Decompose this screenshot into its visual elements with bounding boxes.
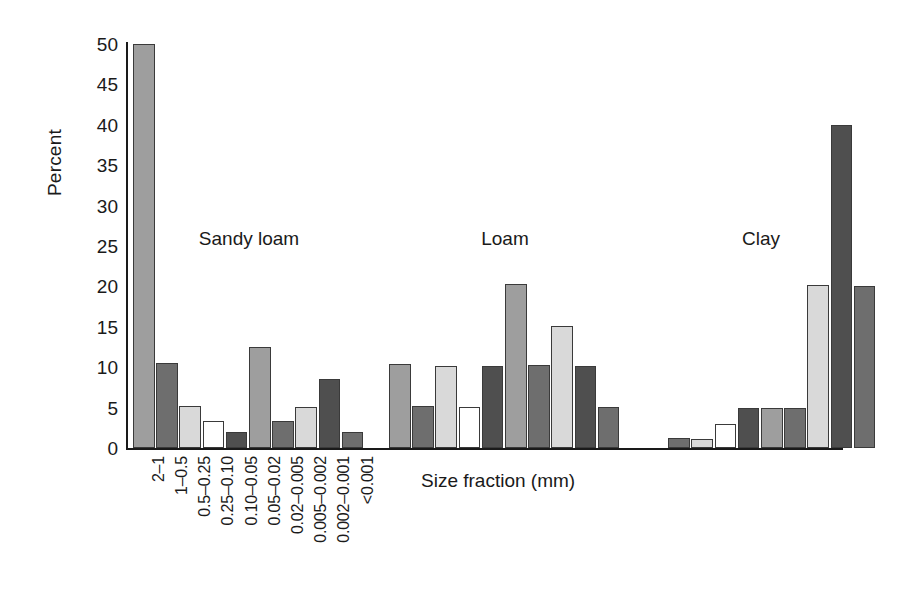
y-tick-label: 15 [78, 317, 118, 336]
y-axis-tick-labels: 05101520253035404550 [72, 44, 118, 448]
x-tick-label: 0.10–0.05 [243, 456, 261, 525]
x-tick-label: 1–0.5 [173, 456, 191, 495]
bar [784, 408, 806, 448]
bar [435, 366, 457, 448]
x-tick-label: 0.02–0.005 [289, 456, 307, 534]
bar [668, 438, 690, 448]
bar [342, 432, 364, 448]
bar [156, 363, 178, 448]
bar [528, 365, 550, 448]
bar [133, 44, 155, 448]
bar [249, 347, 271, 448]
y-tick-label: 25 [78, 237, 118, 256]
x-tick-label: 0.002–0.001 [335, 456, 353, 543]
bar [412, 406, 434, 448]
y-tick-label: 10 [78, 358, 118, 377]
x-tick-label: <0.001 [359, 456, 377, 504]
bar [831, 125, 853, 448]
bar [575, 366, 597, 448]
bar [226, 432, 248, 448]
x-tick-label: 0.25–0.10 [219, 456, 237, 525]
bar [389, 364, 411, 448]
y-tick-label: 0 [78, 439, 118, 458]
bar [854, 286, 876, 448]
group-label: Loam [481, 228, 529, 250]
y-tick-label: 35 [78, 156, 118, 175]
bar [272, 421, 294, 448]
y-tick-label: 30 [78, 196, 118, 215]
bar [738, 408, 760, 448]
bar [203, 421, 225, 448]
bar [598, 407, 620, 448]
group-label: Sandy loam [199, 228, 299, 250]
bar-chart-figure: Percent 05101520253035404550 2–11–0.50.5… [0, 0, 902, 599]
x-tick-label: 2–1 [150, 456, 168, 482]
bar [482, 366, 504, 448]
x-axis-label: Size fraction (mm) [421, 470, 575, 492]
x-tick-label: 0.5–0.25 [196, 456, 214, 517]
bar [691, 439, 713, 448]
bar [715, 424, 737, 448]
y-axis-label: Percent [44, 66, 66, 196]
y-tick-label: 50 [78, 35, 118, 54]
y-tick-label: 40 [78, 115, 118, 134]
y-tick-label: 5 [78, 398, 118, 417]
group-label: Clay [742, 228, 780, 250]
y-tick-label: 20 [78, 277, 118, 296]
x-tick-label: 0.05–0.02 [266, 456, 284, 525]
bar [505, 284, 527, 448]
x-tick-label: 0.005–0.002 [312, 456, 330, 543]
bar [319, 379, 341, 448]
bar [551, 326, 573, 448]
y-tick-label: 45 [78, 75, 118, 94]
bar [761, 408, 783, 448]
bar [459, 407, 481, 448]
bar [179, 406, 201, 448]
bar [295, 407, 317, 448]
x-axis-line [126, 448, 843, 450]
bar [807, 285, 829, 448]
